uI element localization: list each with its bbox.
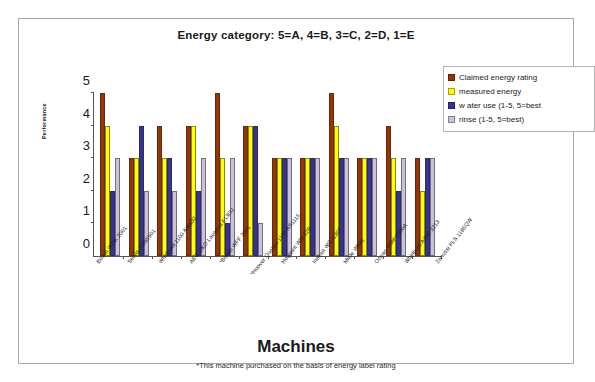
y-tick-label: 1 xyxy=(83,204,90,217)
legend-swatch-claimed-energy-rating xyxy=(448,74,455,81)
chart-footnote: *This machine purchased on the basis of … xyxy=(19,361,573,370)
legend-item: Claimed energy rating xyxy=(448,71,590,84)
legend-item: w ater use (1-5, 5=best xyxy=(448,99,590,112)
bar-group xyxy=(353,93,382,256)
legend-label-water-use: w ater use (1-5, 5=best xyxy=(459,101,541,110)
bar xyxy=(287,158,292,256)
legend-item: rinse (1-5, 5=best) xyxy=(448,113,590,126)
x-axis-category-labels: Bosch WOK 2001Servis (0995901Whirlpool 1… xyxy=(71,257,471,327)
plot-area: 012345 xyxy=(93,93,441,257)
y-tick-label: 2 xyxy=(83,171,90,184)
legend-item: measured energy xyxy=(448,85,590,98)
bar xyxy=(315,158,320,256)
plot-wrapper: 012345 xyxy=(71,93,441,257)
y-tick-label: 5 xyxy=(83,74,90,87)
chart-frame: Energy category: 5=A, 4=B, 3=C, 2=D, 1=E… xyxy=(18,18,574,364)
y-tick-label: 3 xyxy=(83,139,90,152)
y-tick-label: 0 xyxy=(83,237,90,250)
x-axis-title: Machines xyxy=(19,337,573,357)
bar xyxy=(258,223,263,256)
legend-swatch-water-use xyxy=(448,102,455,109)
bar-groups xyxy=(94,93,441,256)
legend-label-claimed-energy-rating: Claimed energy rating xyxy=(459,73,537,82)
bar xyxy=(372,158,377,256)
bar xyxy=(344,158,349,256)
legend-label-rinse: rinse (1-5, 5=best) xyxy=(459,115,524,124)
bar xyxy=(401,158,406,256)
bar xyxy=(430,158,435,256)
y-tick-label: 4 xyxy=(83,106,90,119)
bar-group xyxy=(153,93,182,256)
chart-title: Energy category: 5=A, 4=B, 3=C, 2=D, 1=E xyxy=(19,29,573,41)
chart-legend: Claimed energy rating measured energy w … xyxy=(443,66,595,132)
legend-label-measured-energy: measured energy xyxy=(459,87,521,96)
y-axis-title: Performance xyxy=(41,103,47,139)
legend-swatch-measured-energy xyxy=(448,88,455,95)
legend-swatch-rinse xyxy=(448,116,455,123)
